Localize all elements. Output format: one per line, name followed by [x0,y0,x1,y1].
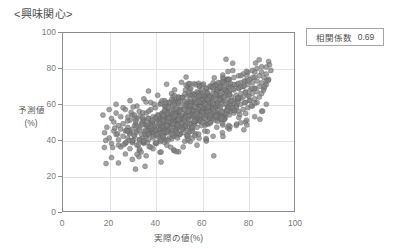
scatter-point [264,64,269,69]
scatter-point [225,69,230,74]
scatter-point [213,92,218,97]
scatter-point [182,107,187,112]
scatter-point [104,161,109,166]
scatter-point [136,142,141,147]
scatter-point [250,75,255,80]
scatter-point [223,101,228,106]
scatter-point [182,139,187,144]
scatter-point [262,84,267,89]
scatter-point [220,134,225,139]
scatter-point [211,153,216,158]
y-axis-tick-mark [58,104,62,105]
plot-area [62,32,295,212]
scatter-point [159,98,164,103]
scatter-point [252,114,257,119]
scatter-point [114,102,119,107]
scatter-point [228,81,233,86]
scatter-point [116,137,121,142]
scatter-point [146,132,151,137]
scatter-point [112,126,117,131]
scatter-point [102,130,107,135]
scatter-point [127,98,132,103]
y-axis-tick-label: 60 [30,99,56,109]
scatter-point [170,122,175,127]
scatter-point [159,149,164,154]
scatter-point [180,95,185,100]
y-axis-tick-mark [58,176,62,177]
scatter-point [103,138,108,143]
scatter-point [116,143,121,148]
scatter-point [243,111,248,116]
scatter-point [244,73,249,78]
scatter-point [204,136,209,141]
scatter-point [264,71,269,76]
scatter-point [130,138,135,143]
scatter-point [140,122,145,127]
scatter-point [172,113,177,118]
scatter-point [107,107,112,112]
scatter-point [104,125,109,130]
scatter-point [249,86,254,91]
y-axis-tick-label: 0 [30,207,56,217]
scatter-point [259,70,264,75]
scatter-point [236,95,241,100]
scatter-point [118,127,123,132]
scatter-point [115,131,120,136]
y-axis-tick-label: 100 [30,27,56,37]
x-axis-tick-label: 40 [140,218,170,228]
scatter-point [193,82,198,87]
scatter-point [143,164,148,169]
scatter-point [264,102,269,107]
page-title: <興味関心> [14,5,73,21]
scatter-point [121,105,126,110]
scatter-point [190,129,195,134]
scatter-point [150,118,155,123]
scatter-point [100,113,105,118]
scatter-point [238,73,243,78]
scatter-point [188,97,193,102]
scatter-point [144,100,149,105]
scatter-point [118,114,123,119]
scatter-point [135,152,140,157]
scatter-point [238,85,243,90]
scatter-point [236,115,241,120]
correlation-label: 相関係数 [316,31,352,43]
scatter-point [166,138,171,143]
scatter-point [208,120,213,125]
scatter-point [231,86,236,91]
scatter-point [167,100,172,105]
scatter-point [140,115,145,120]
x-axis-tick-label: 20 [94,218,124,228]
scatter-points-layer [63,33,294,211]
scatter-point [259,64,264,69]
scatter-point [230,105,235,110]
x-axis-tick-label: 80 [233,218,263,228]
scatter-point [192,104,197,109]
scatter-point [111,119,116,124]
scatter-point [257,117,262,122]
scatter-point [249,103,254,108]
scatter-point [130,157,135,162]
scatter-point [266,78,271,83]
scatter-point [212,75,217,80]
y-axis-tick-label: 20 [30,171,56,181]
scatter-point [172,87,177,92]
scatter-point [109,155,114,160]
x-axis-tick-label: 60 [187,218,217,228]
scatter-point [125,115,130,120]
scatter-point [250,80,255,85]
scatter-point [203,102,208,107]
scatter-point [214,125,219,130]
scatter-point [121,134,126,139]
scatter-point [164,123,169,128]
scatter-point [257,57,262,62]
scatter-point [186,118,191,123]
scatter-point [161,134,166,139]
scatter-point [252,70,257,75]
scatter-point [226,123,231,128]
scatter-point [222,95,227,100]
scatter-point [211,85,216,90]
scatter-point [211,134,216,139]
scatter-point [116,160,121,165]
y-axis-tick-mark [58,212,62,213]
